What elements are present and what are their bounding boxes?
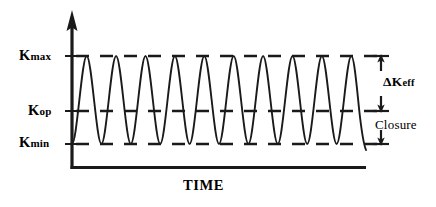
kmax-subscript: max: [30, 50, 51, 62]
x-axis-label: TIME: [183, 177, 224, 194]
y-tick-label-kmax: Kmax: [19, 47, 51, 64]
y-tick-label-kop: Kop: [28, 102, 52, 119]
kmax-base: K: [19, 47, 30, 63]
kop-subscript: op: [39, 105, 51, 117]
closure-label: Closure: [375, 117, 417, 133]
stress-intensity-closure-diagram: Kmax Kop Kmin TIME ΔKeff Closure: [0, 0, 436, 207]
y-tick-label-kmin: Kmin: [19, 134, 49, 151]
delta-k-eff-subscript: eff: [402, 77, 414, 88]
diagram-canvas: [0, 0, 436, 207]
delta-k-eff-base: ΔK: [383, 74, 402, 89]
delta-k-eff-label: ΔKeff: [383, 74, 415, 90]
sinusoid-curve: [72, 56, 366, 150]
kmin-base: K: [19, 134, 30, 150]
kmin-subscript: min: [30, 137, 49, 149]
kop-base: K: [28, 102, 39, 118]
